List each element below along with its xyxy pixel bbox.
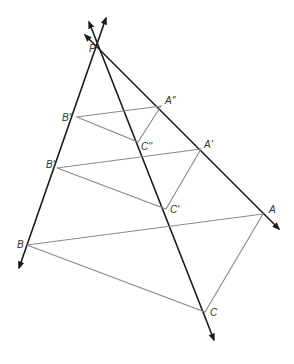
label-c-double-prime: C'' [141,141,153,152]
label-b: B [17,239,24,250]
label-a: A [268,204,276,215]
label-a-prime: A' [203,139,214,150]
ray-pb-line [19,18,106,268]
triangle-prime [57,149,201,209]
diagram-canvas: P A'' B'' C'' A' B' C' A B C [0,0,294,364]
label-c-prime: C' [170,204,180,215]
label-a-double-prime: A'' [164,95,177,106]
label-b-prime: B' [46,159,56,170]
triangle-original [27,214,263,312]
label-p: P [89,43,96,54]
label-c: C [210,307,218,318]
triangle-double-prime [77,106,161,142]
label-b-double-prime: B'' [62,112,74,123]
